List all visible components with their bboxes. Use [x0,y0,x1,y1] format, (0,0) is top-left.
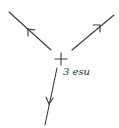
positive-charge [55,53,67,65]
arrowhead-icon [46,97,53,104]
field-line-upper-left [9,12,51,50]
field-line-upper-right [72,15,114,50]
field-diagram: 3 esu [0,0,119,128]
field-line-lower [45,68,57,125]
charge-label: 3 esu [63,66,90,77]
